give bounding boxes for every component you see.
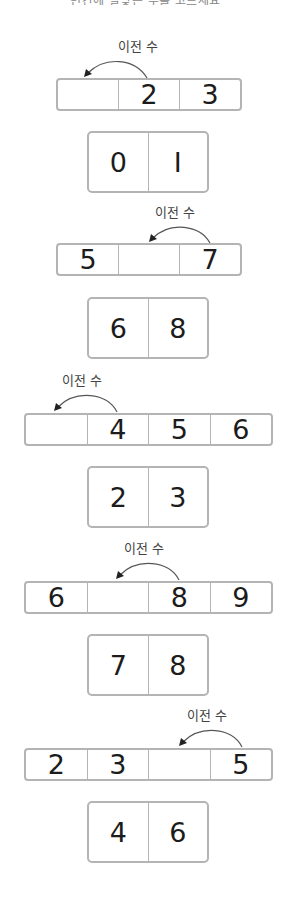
choice-option[interactable]: 2 (89, 468, 148, 526)
blank-cell[interactable] (87, 583, 149, 612)
choice-option[interactable]: 6 (89, 299, 148, 357)
blank-cell[interactable] (148, 750, 210, 779)
sequence-cell: 3 (179, 80, 240, 109)
curved-arrow-icon (175, 725, 250, 749)
blank-cell[interactable] (118, 245, 179, 274)
sequence-cell: 6 (26, 583, 87, 612)
choice-option[interactable]: 6 (148, 803, 208, 861)
sequence-cell: 3 (87, 750, 149, 779)
sequence-cell: 2 (118, 80, 179, 109)
previous-number-label: 이전 수 (62, 370, 102, 389)
number-sequence-row: 2 3 (56, 78, 242, 111)
previous-number-label: 이전 수 (124, 538, 164, 557)
number-sequence-row: 4 5 6 (24, 413, 273, 446)
choice-option[interactable]: 4 (89, 803, 148, 861)
answer-choices: 4 6 (87, 801, 209, 863)
number-sequence-row: 2 3 5 (24, 748, 273, 781)
blank-cell[interactable] (58, 80, 118, 109)
curved-arrow-icon (50, 390, 125, 414)
choice-option[interactable]: I (148, 133, 208, 191)
blank-cell[interactable] (26, 415, 87, 444)
previous-number-label: 이전 수 (155, 202, 195, 221)
sequence-cell: 7 (179, 245, 240, 274)
answer-choices: 0 I (87, 131, 209, 193)
answer-choices: 2 3 (87, 466, 209, 528)
sequence-cell: 5 (58, 245, 118, 274)
curved-arrow-icon (80, 56, 155, 80)
choice-option[interactable]: 0 (89, 133, 148, 191)
choice-option[interactable]: 8 (148, 299, 208, 357)
answer-choices: 6 8 (87, 297, 209, 359)
curved-arrow-icon (112, 558, 187, 582)
previous-number-label: 이전 수 (187, 705, 227, 724)
cropped-instruction-text: 빈칸에 알맞은 수를 고르세요 (0, 0, 291, 5)
sequence-cell: 8 (148, 583, 210, 612)
curved-arrow-icon (145, 221, 220, 245)
sequence-cell: 5 (210, 750, 272, 779)
sequence-cell: 5 (148, 415, 210, 444)
answer-choices: 7 8 (87, 634, 209, 696)
sequence-cell: 6 (210, 415, 272, 444)
choice-option[interactable]: 8 (148, 636, 208, 694)
sequence-cell: 4 (87, 415, 149, 444)
previous-number-label: 이전 수 (118, 36, 158, 55)
choice-option[interactable]: 7 (89, 636, 148, 694)
number-sequence-row: 6 8 9 (24, 581, 273, 614)
sequence-cell: 9 (210, 583, 272, 612)
number-sequence-row: 5 7 (56, 243, 242, 276)
sequence-cell: 2 (26, 750, 87, 779)
choice-option[interactable]: 3 (148, 468, 208, 526)
